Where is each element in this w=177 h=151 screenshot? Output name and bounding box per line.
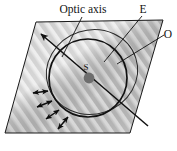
o-ray-label: O <box>164 28 172 40</box>
optic-axis-label: Optic axis <box>60 3 107 16</box>
source-label: S <box>83 62 88 72</box>
source-point-dot <box>84 73 95 84</box>
e-ray-label: E <box>139 3 146 15</box>
optics-figure: S Optic axis E O <box>0 0 177 151</box>
